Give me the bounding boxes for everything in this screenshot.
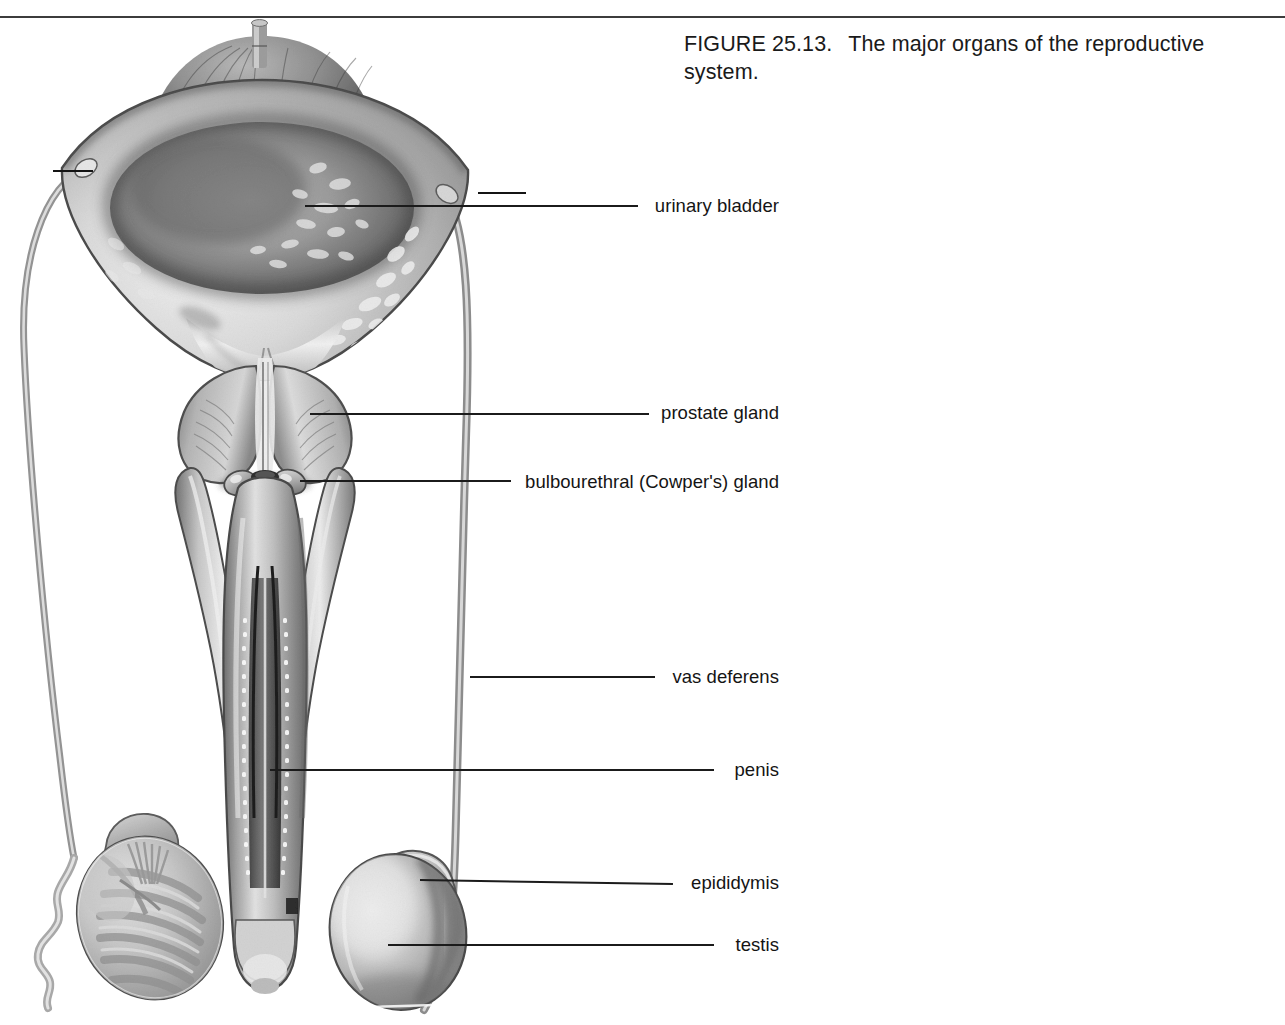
- testis-left-sectioned-art: [58, 814, 242, 1017]
- ureter-left-tick: [53, 170, 93, 172]
- label-bulbourethral-gland: bulbourethral (Cowper's) gland: [379, 472, 779, 492]
- label-epididymis: epididymis: [379, 873, 779, 893]
- label-penis: penis: [379, 760, 779, 780]
- ureter-right-tick: [478, 192, 526, 194]
- figure-caption: FIGURE 25.13.The major organs of the rep…: [684, 30, 1284, 86]
- label-vas-deferens: vas deferens: [379, 667, 779, 687]
- figure-page: FIGURE 25.13.The major organs of the rep…: [0, 0, 1285, 1025]
- urachus-stub: [252, 20, 268, 68]
- figure-number: FIGURE 25.13.: [684, 32, 832, 56]
- label-prostate-gland: prostate gland: [379, 403, 779, 423]
- label-urinary-bladder: urinary bladder: [379, 196, 779, 216]
- label-testis: testis: [379, 935, 779, 955]
- vas-deferens-left-tube: [24, 168, 86, 1008]
